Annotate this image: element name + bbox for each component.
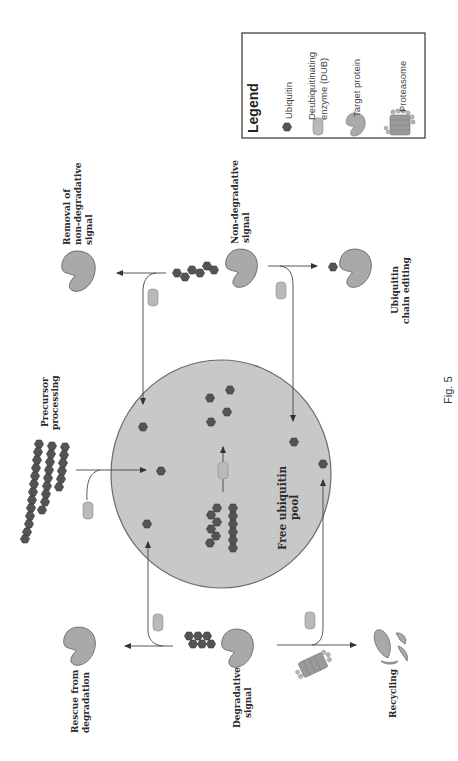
target-protein-icon <box>64 627 96 665</box>
removal-label-2: non-degradative <box>73 162 83 245</box>
pool-label-2: pool <box>288 495 300 520</box>
node-rescue-from-degradation: Rescue from degradation <box>64 542 173 733</box>
free-ubiquitin-pool: Free ubiquitin pool <box>111 360 331 588</box>
dub-icon <box>148 289 158 306</box>
target-protein-icon <box>340 249 372 287</box>
legend-title: Legend <box>245 83 261 133</box>
recycling-label: Recycling <box>388 668 398 718</box>
degraded-protein-fragments-icon <box>374 630 407 664</box>
precursor-label-1: Precursor <box>40 377 50 427</box>
node-degradative-signal: Degradative signal <box>184 629 253 728</box>
chain-editing-label-2: chain editing <box>401 256 411 324</box>
chain-editing-label-1: Ubiquitin <box>390 266 400 314</box>
ubiquitin-cluster <box>184 632 215 648</box>
dub-icon <box>218 462 228 479</box>
removal-label-3: signal <box>84 214 94 245</box>
dub-icon <box>153 614 163 631</box>
target-protein-icon <box>226 249 258 287</box>
legend-label-target-protein: Target protein <box>351 59 362 117</box>
target-protein-icon <box>222 629 254 667</box>
degradative-label-1: Degradative <box>232 667 242 728</box>
proteasome-icon <box>292 648 335 680</box>
node-removal-of-non-degradative-signal: Removal of non-degradative signal <box>62 162 166 404</box>
precursor-label-2: processing <box>50 375 60 430</box>
legend-label-dub-1: Deubiquitinating <box>306 52 317 120</box>
ubiquitin-chain-short <box>172 262 218 281</box>
rescue-label-1: Rescue from <box>70 669 80 733</box>
dub-icon <box>83 502 93 519</box>
degradative-label-2: signal <box>243 687 253 718</box>
figure-caption: Fig. 5 <box>442 376 454 404</box>
non-degradative-label-2: signal <box>241 212 251 243</box>
legend-label-ubiquitin: Ubiquitin <box>283 82 294 119</box>
legend-label-proteasome: Proteasome <box>397 61 408 112</box>
rescue-label-2: degradation <box>81 671 91 733</box>
dub-icon <box>276 282 286 299</box>
pool-label-1: Free ubiquitin <box>276 465 288 550</box>
ubiquitin-pool-diagram: Legend Ubiquitin Deubiquitinating enzyme… <box>0 0 458 761</box>
dub-icon <box>305 612 315 629</box>
non-degradative-label-1: Non-degradative <box>230 160 240 244</box>
legend-box: Legend Ubiquitin Deubiquitinating enzyme… <box>242 33 425 138</box>
ubiquitin-icon <box>282 123 291 131</box>
legend-label-dub-2: enzyme (DUB) <box>318 58 329 120</box>
node-non-degradative-signal: Non-degradative signal <box>172 160 257 288</box>
precursor-chain-1 <box>20 440 43 543</box>
target-protein-icon <box>62 251 95 291</box>
removal-label-1: Removal of <box>62 188 72 245</box>
precursor-chain-3 <box>54 443 69 491</box>
ubiquitin-icon <box>328 263 337 271</box>
